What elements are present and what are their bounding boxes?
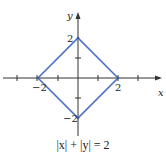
y-axis-label: y bbox=[66, 10, 73, 21]
graph-canvas: x y −2 2 2 −2 bbox=[0, 0, 166, 160]
equation-caption: |x| + |y| = 2 bbox=[0, 138, 166, 153]
tick-label-y-pos: 2 bbox=[67, 33, 73, 44]
tick-label-x-pos: 2 bbox=[115, 82, 121, 93]
tick-label-y-neg: −2 bbox=[63, 113, 78, 124]
tick-label-x-neg: −2 bbox=[32, 82, 47, 93]
x-axis-label: x bbox=[158, 87, 164, 98]
x-axis bbox=[3, 75, 162, 81]
